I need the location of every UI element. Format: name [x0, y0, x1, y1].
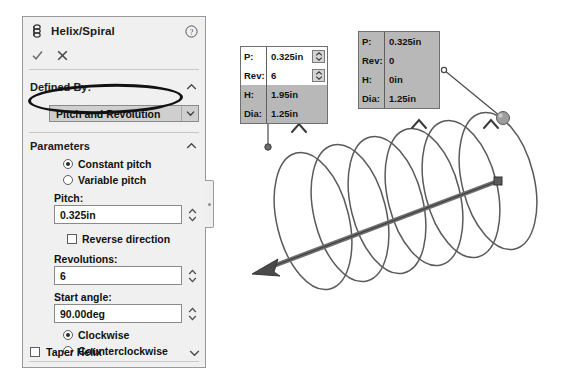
axis-endpoint-handle [494, 177, 502, 185]
radio-constant-pitch-label: Constant pitch [78, 158, 152, 170]
callout-value[interactable]: 0.325in [267, 47, 312, 66]
start-angle-input[interactable]: 90.00deg [54, 304, 182, 323]
sphere-highlight [498, 113, 502, 117]
callout-row[interactable]: P: 0.325in [241, 47, 327, 66]
defined-by-header[interactable]: Defined By: [30, 79, 200, 95]
callout-row: Rev: 0 [359, 51, 439, 70]
screenshot-root: Helix/Spiral ? Defined By: [0, 0, 570, 382]
callout-key: Rev: [359, 51, 385, 70]
panel-collapse-handle[interactable] [205, 180, 214, 228]
caret-marker-3 [484, 120, 498, 128]
callout-leader-right [444, 70, 500, 116]
help-icon[interactable]: ? [185, 24, 198, 37]
callout-value: 1.25in [267, 104, 327, 123]
pitch-field-wrap: 0.325in [54, 205, 199, 224]
start-angle-label: Start angle: [54, 291, 112, 303]
leader-anchor-point [441, 67, 446, 72]
property-manager-panel: Helix/Spiral ? Defined By: [22, 16, 206, 368]
defined-by-value: Pitch and Revolution [50, 108, 181, 120]
divider [29, 361, 199, 362]
callout-stepper[interactable] [312, 50, 325, 63]
ok-button[interactable] [31, 48, 44, 61]
helix-start-sphere-handle[interactable] [497, 112, 510, 125]
radio-clockwise-label: Clockwise [78, 329, 129, 341]
pitch-input[interactable]: 0.325in [54, 205, 182, 224]
revolutions-stepper[interactable] [186, 267, 199, 284]
helix-end-point[interactable] [265, 144, 271, 150]
chevron-up-icon [186, 81, 197, 93]
callout-value[interactable]: 6 [267, 66, 312, 85]
radio-variable-pitch-label: Variable pitch [78, 174, 146, 186]
radio-clockwise[interactable]: Clockwise [63, 329, 129, 341]
radio-indicator [63, 159, 73, 169]
pitch-label: Pitch: [54, 192, 83, 204]
reverse-direction-label: Reverse direction [82, 233, 170, 245]
radio-constant-pitch[interactable]: Constant pitch [63, 158, 152, 170]
radio-indicator [63, 175, 73, 185]
helix-start-callout[interactable]: P: 0.325in Rev: 0 H: 0in Dia: 1.25in [358, 31, 440, 109]
callout-value: 0 [385, 51, 439, 70]
callout-value: 1.95in [267, 85, 327, 104]
taper-helix-label: Taper Helix [46, 346, 102, 358]
callout-key: Dia: [241, 104, 267, 123]
divider [29, 132, 199, 133]
callout-key: H: [241, 85, 267, 104]
callout-row: H: 1.95in [241, 85, 327, 104]
callout-key: P: [241, 47, 267, 66]
revolutions-field-wrap: 6 [54, 266, 199, 285]
pitch-stepper[interactable] [186, 206, 199, 223]
chevron-down-icon[interactable] [181, 106, 198, 121]
defined-by-dropdown[interactable]: Pitch and Revolution [49, 105, 199, 122]
callout-key: H: [359, 70, 385, 89]
start-angle-field-wrap: 90.00deg [54, 304, 199, 323]
taper-helix-section[interactable]: Taper Helix [30, 343, 200, 361]
callout-row: Dia: 1.25in [359, 89, 439, 108]
callout-row: Dia: 1.25in [241, 104, 327, 123]
caret-marker-1 [292, 124, 306, 132]
chevron-down-icon[interactable] [189, 343, 200, 361]
helix-end-callout[interactable]: P: 0.325in Rev: 6 [240, 46, 328, 124]
start-angle-stepper[interactable] [186, 305, 199, 322]
callout-value: 0in [385, 70, 439, 89]
callout-row: H: 0in [359, 70, 439, 89]
callout-key: Dia: [359, 89, 385, 108]
helix-curve [261, 104, 550, 297]
cancel-button[interactable] [56, 48, 69, 61]
helix-spiral-icon [29, 23, 45, 39]
callout-value: 1.25in [385, 89, 439, 108]
callout-stepper[interactable] [312, 69, 325, 82]
callout-row: P: 0.325in [359, 32, 439, 51]
svg-text:?: ? [190, 28, 194, 37]
divider [29, 69, 199, 70]
parameters-header[interactable]: Parameters [30, 138, 200, 154]
callout-key: P: [359, 32, 385, 51]
chevron-up-icon [186, 140, 197, 152]
panel-title-bar: Helix/Spiral [23, 17, 205, 45]
callout-value: 0.325in [385, 32, 439, 51]
radio-variable-pitch[interactable]: Variable pitch [63, 174, 146, 186]
revolutions-input[interactable]: 6 [54, 266, 182, 285]
confirm-bar [23, 44, 205, 64]
radio-indicator [63, 330, 73, 340]
page-title: Helix/Spiral [51, 25, 115, 37]
reverse-direction-checkbox[interactable]: Reverse direction [67, 233, 170, 245]
revolutions-label: Revolutions: [54, 253, 118, 265]
callout-key: Rev: [241, 66, 267, 85]
caret-marker-2 [412, 120, 426, 128]
graphics-area: P: 0.325in Rev: 6 [226, 0, 570, 382]
checkbox-indicator [67, 234, 77, 244]
callout-row[interactable]: Rev: 6 [241, 66, 327, 85]
parameters-label: Parameters [30, 140, 90, 152]
defined-by-label: Defined By: [30, 81, 91, 93]
checkbox-indicator[interactable] [30, 347, 40, 357]
